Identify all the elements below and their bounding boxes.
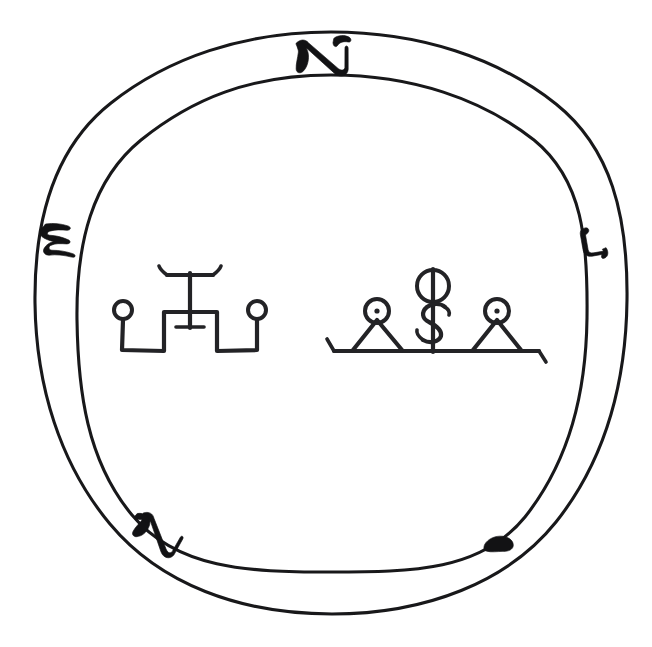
sigil-right-head-dot-right [494, 308, 499, 313]
sigil-right-baseline-tick-right [539, 351, 546, 362]
sigil-right-head-dot-left [374, 308, 379, 313]
ring-mark-bottom-right-yod [482, 534, 514, 555]
vav-icon [579, 225, 605, 257]
aleph-right-flag [333, 35, 352, 47]
sigil-left-terminal-circle-left [114, 301, 132, 319]
seal-drawing [0, 0, 652, 647]
sigil-right-baseline-tick-left [327, 339, 334, 351]
ring-mark-top-aleph [295, 35, 353, 78]
yod-icon [482, 534, 514, 555]
sigil-right [327, 269, 546, 362]
sigil-right-serpent-head [445, 307, 449, 315]
sigil-right-serpent-tail [417, 330, 423, 340]
ring-inner-circle [77, 75, 587, 572]
seal-canvas [0, 0, 652, 647]
sigil-left [114, 266, 266, 351]
sigil-left-terminal-circle-right [248, 301, 266, 319]
sigil-left-tau-arm-left [159, 266, 167, 275]
sigil-left-tau-arm-right [213, 266, 221, 275]
